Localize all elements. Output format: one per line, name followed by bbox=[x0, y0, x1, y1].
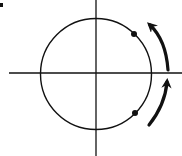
upper-arrow-icon bbox=[150, 25, 168, 70]
lower-arrow-icon bbox=[149, 82, 167, 125]
circle-axes-diagram bbox=[0, 0, 182, 156]
lower-point bbox=[132, 110, 138, 116]
upper-point bbox=[131, 31, 137, 37]
